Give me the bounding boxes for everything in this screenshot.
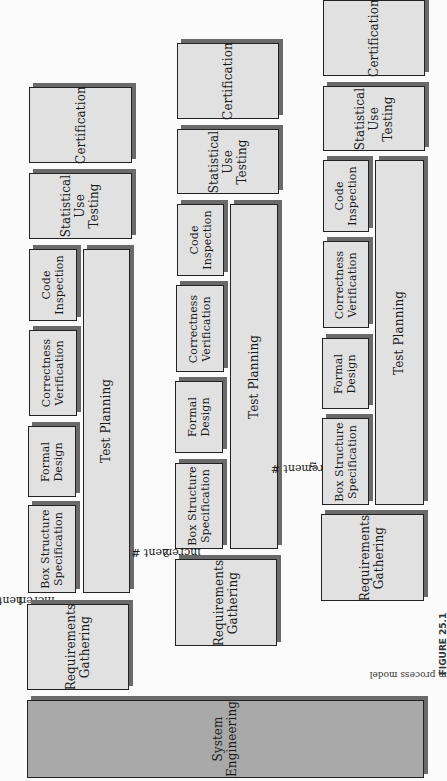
inc1-code-inspection-label: Code Inspection bbox=[40, 255, 66, 314]
incn-requirements-box: Requirements Gathering bbox=[321, 514, 424, 601]
inc2-box-structure-box: Box Structure Specification bbox=[175, 463, 223, 549]
inc2-statistical-testing-box: Statistical Use Testing bbox=[177, 129, 279, 194]
inc1-box-structure-box: Box Structure Specification bbox=[28, 505, 76, 593]
inc1-requirements-label: Requirements Gathering bbox=[64, 604, 92, 691]
incn-formal-design-label: Formal Design bbox=[333, 353, 359, 393]
inc2-formal-design-label: Formal Design bbox=[186, 397, 212, 437]
inc2-test-planning-box: Test Planning bbox=[230, 204, 278, 549]
incn-box-structure-box: Box Structure Specification bbox=[322, 418, 369, 505]
inc2-statistical-testing-label: Statistical Use Testing bbox=[207, 130, 249, 193]
inc1-certification-box: Certification bbox=[29, 87, 132, 163]
inc1-box-structure-label: Box Structure Specification bbox=[39, 509, 65, 588]
inc1-test-planning-label: Test Planning bbox=[100, 379, 114, 463]
inc1-code-inspection-box: Code Inspection bbox=[29, 249, 77, 321]
inc2-test-planning-label: Test Planning bbox=[247, 334, 261, 418]
incn-statistical-testing-label: Statistical Use Testing bbox=[353, 87, 395, 150]
inc1-test-planning-box: Test Planning bbox=[83, 249, 130, 593]
inc1-formal-design-label: Formal Design bbox=[39, 441, 65, 481]
inc1-requirements-box: Requirements Gathering bbox=[27, 604, 129, 690]
incn-certification-label: Certification bbox=[367, 0, 381, 77]
inc2-requirements-label: Requirements Gathering bbox=[212, 559, 240, 646]
inc2-requirements-box: Requirements Gathering bbox=[175, 559, 277, 646]
inc1-correctness-verification-box: Correctness Verification bbox=[29, 330, 77, 416]
incn-statistical-testing-box: Statistical Use Testing bbox=[323, 86, 425, 151]
inc2-code-inspection-label: Code Inspection bbox=[188, 210, 214, 269]
incn-requirements-label: Requirements Gathering bbox=[359, 514, 387, 601]
incn-test-planning-label: Test Planning bbox=[393, 290, 407, 374]
incn-code-inspection-box: Code Inspection bbox=[323, 160, 369, 232]
system-engineering-box: System Engineering bbox=[27, 700, 424, 778]
incn-formal-design-box: Formal Design bbox=[322, 338, 369, 409]
incn-correctness-verification-box: Correctness Verification bbox=[323, 241, 369, 328]
inc1-statistical-testing-box: Statistical Use Testing bbox=[29, 173, 132, 239]
inc2-correctness-verification-label: Correctness Verification bbox=[187, 294, 213, 363]
incn-certification-box: Certification bbox=[323, 0, 425, 76]
incn-correctness-verification-label: Correctness Verification bbox=[333, 250, 359, 319]
inc1-statistical-testing-label: Statistical Use Testing bbox=[60, 175, 102, 238]
inc2-certification-box: Certification bbox=[177, 43, 279, 119]
inc2-box-structure-label: Box Structure Specification bbox=[186, 466, 212, 545]
inc2-certification-label: Certification bbox=[221, 42, 235, 120]
incn-box-structure-label: Box Structure Specification bbox=[333, 422, 359, 501]
inc1-certification-label: Certification bbox=[74, 86, 88, 164]
incn-code-inspection-label: Code Inspection bbox=[333, 166, 359, 225]
inc2-correctness-verification-box: Correctness Verification bbox=[176, 285, 224, 372]
inc1-correctness-verification-label: Correctness Verification bbox=[40, 339, 66, 408]
cleanroom-process-diagram: increment #1 Certification Statistical U… bbox=[0, 0, 447, 781]
inc1-formal-design-box: Formal Design bbox=[28, 426, 76, 497]
inc2-code-inspection-box: Code Inspection bbox=[177, 204, 224, 276]
system-engineering-label: System Engineering bbox=[212, 701, 240, 777]
inc2-formal-design-box: Formal Design bbox=[175, 381, 223, 453]
incn-test-planning-box: Test Planning bbox=[375, 160, 424, 505]
